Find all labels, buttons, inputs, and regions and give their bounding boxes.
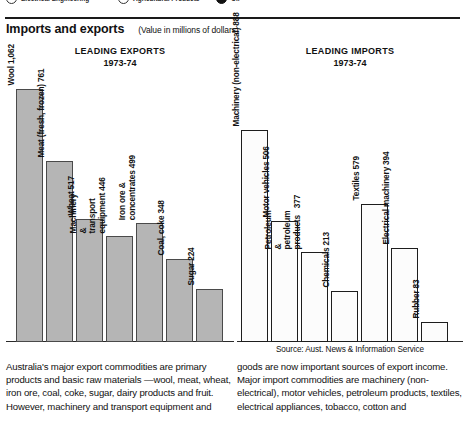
cutoff-item: Electrical Engineering <box>6 0 89 4</box>
bar-label-name: Machinery & transport equipment <box>69 192 107 233</box>
bar-label: Meat (fresh, frozen)761 <box>37 69 47 158</box>
bar-label-value: 394 <box>382 152 392 165</box>
bar-label: Iron ore & concentrates499 <box>118 155 137 220</box>
circle-icon <box>6 0 17 4</box>
cutoff-item-label: Agricultural Products <box>133 0 199 2</box>
bar-label-value: 888 <box>232 13 242 26</box>
bar-label-value: 83 <box>412 280 422 289</box>
imports-plot-area: Machinery (non-electrical)888Motor vehic… <box>237 46 463 342</box>
source-note: Source: Aust. News & Information Service <box>237 345 463 354</box>
bar-label-name: Machinery (non-electrical) <box>232 28 242 127</box>
bar-label-value: 499 <box>127 155 137 168</box>
bar-label-value: 579 <box>352 157 362 170</box>
cutoff-item: Oil <box>216 0 240 4</box>
bar-label-value: 506 <box>262 147 272 160</box>
bar-label: Rubber83 <box>412 280 422 319</box>
bar-label-name: Iron ore & concentrates <box>118 170 137 220</box>
bar-label: Coal, coke348 <box>157 201 167 256</box>
bar-label: Machinery & transport equipment446 <box>69 177 107 233</box>
bar <box>196 289 223 342</box>
bar <box>331 291 358 342</box>
section-header: Imports and exports (Value in millions o… <box>6 22 239 36</box>
page-subtitle: (Value in millions of dollars) <box>138 25 238 35</box>
cutoff-item-label: Oil <box>231 0 240 2</box>
bar-label-value: 224 <box>187 248 197 261</box>
bar-group: Chemicals213 <box>331 68 358 342</box>
bar-label-value: 213 <box>322 232 332 245</box>
bar <box>76 219 103 342</box>
bar-group: Coal, coke348 <box>166 68 193 342</box>
bar-label: Wool1,062 <box>7 44 17 86</box>
bar-label: Electrical machinery394 <box>382 152 392 245</box>
cutoff-strip: Electrical EngineeringAgricultural Produ… <box>0 0 465 12</box>
bar-label: Sugar224 <box>187 248 197 286</box>
bar-label-name: Sugar <box>187 263 197 286</box>
bar-group: Sugar224 <box>196 68 223 342</box>
bar-label-name: Rubber <box>412 291 422 319</box>
bar-label-name: Wool <box>7 66 17 86</box>
bar-label-name: Meat (fresh, frozen) <box>37 84 47 158</box>
bar <box>421 322 448 342</box>
bar-label-value: 446 <box>97 177 107 190</box>
bar-label-name: Chemicals <box>322 248 332 288</box>
bar-label-value: 377 <box>292 194 302 207</box>
bar-label-name: Petroleum & petroleum products <box>264 210 302 249</box>
chart-panel-exports: LEADING EXPORTS 1973-74 Wool1,062Meat (f… <box>6 46 234 346</box>
circle-icon <box>118 0 129 4</box>
circle-filled-icon <box>216 0 227 4</box>
body-text-left-column: Australia's major export commodities are… <box>6 360 232 413</box>
exports-plot-area: Wool1,062Meat (fresh, frozen)761Wheat517… <box>6 46 234 342</box>
bar-label-name: Electrical machinery <box>382 167 392 245</box>
bar-group: Rubber83 <box>421 68 448 342</box>
bar-label-value: 348 <box>157 201 167 214</box>
page-title: Imports and exports <box>6 22 124 36</box>
cutoff-item: Agricultural Products <box>118 0 199 4</box>
bar <box>106 236 133 342</box>
bar-label-name: Coal, coke <box>157 216 167 256</box>
bar-label-value: 761 <box>37 69 47 82</box>
bar-label-name: Textiles <box>352 172 362 201</box>
chart-panel-imports: LEADING IMPORTS 1973-74 Machinery (non-e… <box>237 46 463 346</box>
bar-label: Machinery (non-electrical)888 <box>232 13 242 127</box>
cutoff-item-label: Electrical Engineering <box>21 0 89 2</box>
bar-label: Textiles579 <box>352 157 362 202</box>
bar-label: Petroleum & petroleum products377 <box>264 194 302 249</box>
bar-group: Petroleum & petroleum products377 <box>301 68 328 342</box>
body-text-right-column: goods are now important sources of expor… <box>237 360 463 413</box>
bar-label-value: 1,062 <box>7 44 17 64</box>
bar-label: Chemicals213 <box>322 232 332 288</box>
